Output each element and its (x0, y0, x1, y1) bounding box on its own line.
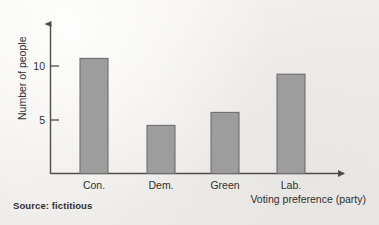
x-tick-label-green: Green (210, 179, 239, 191)
x-tick-label-con: Con. (83, 179, 105, 191)
y-tick-label-5: 5 (39, 114, 45, 126)
x-tick-label-dem: Dem. (148, 179, 173, 191)
bar-con (80, 58, 108, 173)
bar-lab (277, 74, 305, 173)
source-note: Source: fictitious (13, 200, 92, 211)
bar-dem (147, 125, 175, 173)
x-tick-label-lab: Lab. (281, 179, 301, 191)
y-axis-title: Number of people (16, 36, 28, 120)
y-tick-label-10: 10 (33, 60, 45, 72)
bar-chart: 5 10 Number of people Con. Dem. Green La… (0, 0, 379, 225)
figure-canvas: 5 10 Number of people Con. Dem. Green La… (0, 0, 379, 225)
x-axis-title: Voting preference (party) (250, 193, 366, 205)
bar-green (211, 112, 239, 173)
